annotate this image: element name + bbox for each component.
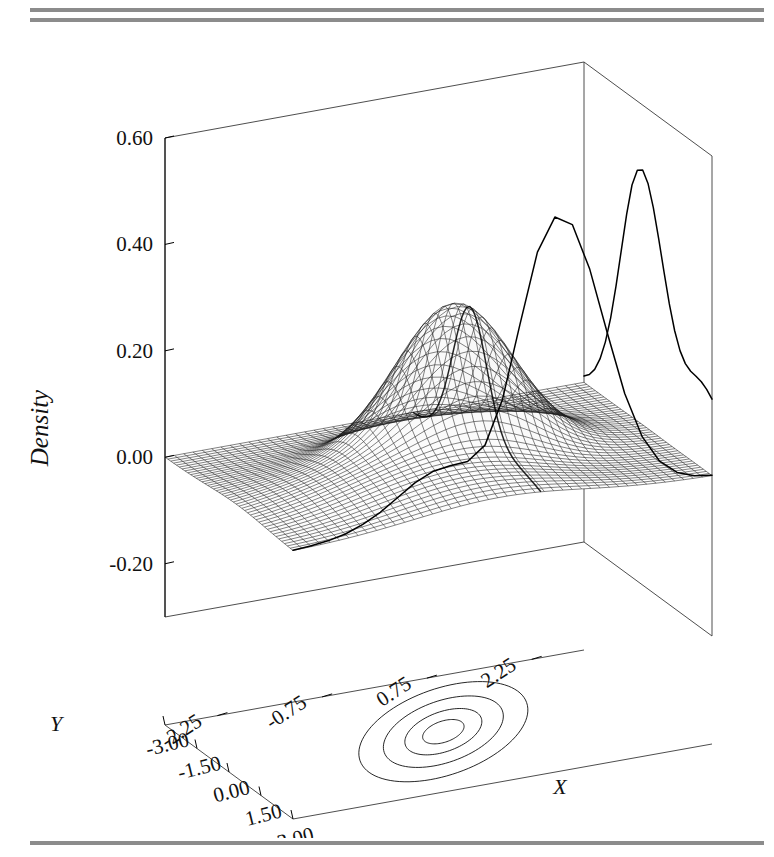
density-plot-svg: 0.600.400.200.00-0.202.250.75-0.75-2.25-… [0, 26, 774, 838]
axis-tick-label: -1.50 [175, 751, 223, 785]
axis-tick-label: 3.00 [275, 822, 316, 838]
axis-tick-label: -0.20 [109, 552, 153, 576]
axis-tick-label: -3.00 [143, 727, 191, 761]
axis-tick-label: 0.20 [116, 339, 153, 363]
axis-tick-label: 2.25 [476, 652, 520, 692]
x-axis-title: X [552, 774, 568, 799]
axis-tick-label: 0.60 [116, 126, 153, 150]
axis-tick-label: 0.00 [211, 775, 252, 807]
top-rule-lower [30, 18, 764, 22]
surface-mesh [165, 303, 712, 550]
axis-tick-label: 1.50 [243, 799, 284, 831]
axis-tick-label: 0.40 [116, 232, 153, 256]
top-rule-upper [30, 8, 764, 12]
figure-page: 0.600.400.200.00-0.202.250.75-0.75-2.25-… [0, 0, 774, 857]
y-axis-title: Y [50, 711, 65, 736]
density-figure: 0.600.400.200.00-0.202.250.75-0.75-2.25-… [0, 26, 774, 838]
axis-tick-label: 0.75 [372, 671, 416, 711]
bottom-rule [30, 841, 764, 845]
axis-tick-label: -0.75 [261, 690, 311, 734]
axis-tick-label: 0.00 [116, 445, 153, 469]
z-axis-title: Density [26, 389, 53, 467]
